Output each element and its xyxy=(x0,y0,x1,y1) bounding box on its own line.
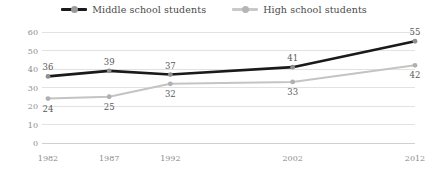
data-point xyxy=(413,39,418,44)
data-point xyxy=(290,80,295,85)
data-label: 32 xyxy=(165,89,176,99)
data-point xyxy=(46,74,51,79)
data-label: 25 xyxy=(104,102,115,112)
data-label: 41 xyxy=(287,53,298,63)
x-axis-tick-labels: 19821987199220022012 xyxy=(38,154,425,163)
data-label: 42 xyxy=(410,70,421,80)
data-point xyxy=(290,65,295,70)
data-point xyxy=(413,63,418,68)
x-tick-2012: 2012 xyxy=(405,154,425,163)
data-label: 33 xyxy=(287,87,298,97)
data-point xyxy=(46,96,51,101)
y-tick-60: 60 xyxy=(28,28,38,37)
data-point xyxy=(168,72,173,77)
data-label: 24 xyxy=(43,104,54,114)
x-tick-1992: 1992 xyxy=(160,154,180,163)
data-label: 39 xyxy=(104,57,115,67)
data-label: 37 xyxy=(165,61,176,71)
x-tick-1982: 1982 xyxy=(38,154,58,163)
y-tick-10: 10 xyxy=(28,121,38,130)
data-point xyxy=(107,94,112,99)
data-point xyxy=(107,68,112,73)
y-axis-tick-labels: 0102030405060 xyxy=(28,28,38,148)
y-tick-30: 30 xyxy=(28,84,38,93)
y-tick-20: 20 xyxy=(28,102,38,111)
line-chart: Middle school students High school stude… xyxy=(0,0,428,178)
data-point xyxy=(168,81,173,86)
x-tick-2002: 2002 xyxy=(282,154,302,163)
y-gridlines xyxy=(42,32,415,143)
y-tick-50: 50 xyxy=(28,47,38,56)
data-label: 55 xyxy=(410,27,421,37)
data-label: 36 xyxy=(43,62,54,72)
y-tick-0: 0 xyxy=(33,139,38,148)
plot-area: 0102030405060 19821987199220022012 36393… xyxy=(0,0,428,178)
x-tick-1987: 1987 xyxy=(99,154,119,163)
y-tick-40: 40 xyxy=(28,65,38,74)
series-lines xyxy=(48,41,415,98)
